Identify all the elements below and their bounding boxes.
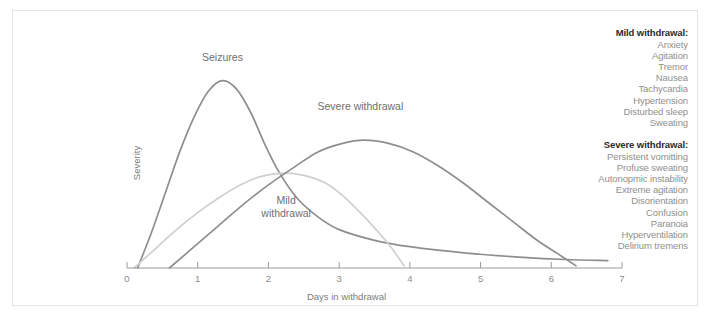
curve-label-seizures: Seizures xyxy=(202,51,243,63)
x-tick-label: 3 xyxy=(336,273,341,284)
x-tick-label: 4 xyxy=(407,273,412,284)
curve-label-mild-withdrawal: Mildwithdrawal xyxy=(260,194,311,219)
symptom-legend: Mild withdrawal:AnxietyAgitationTremorNa… xyxy=(488,27,688,251)
legend-title: Severe withdrawal: xyxy=(488,139,688,151)
x-tick-label: 0 xyxy=(124,273,129,284)
x-tick-label: 2 xyxy=(266,273,271,284)
legend-item: Hypertension xyxy=(488,95,688,106)
legend-item: Disturbed sleep xyxy=(488,106,688,117)
legend-item: Profuse sweating xyxy=(488,162,688,173)
curve-label-severe-withdrawal: Severe withdrawal xyxy=(317,100,403,112)
legend-item: Extreme agitation xyxy=(488,184,688,195)
legend-item: Sweating xyxy=(488,117,688,128)
legend-block: Severe withdrawal:Persistent vomittingPr… xyxy=(488,139,688,251)
legend-item: Tremor xyxy=(488,61,688,72)
y-axis-title: Severity xyxy=(131,146,142,181)
legend-item: Tachycardia xyxy=(488,83,688,94)
x-tick-label: 6 xyxy=(549,273,554,284)
legend-item: Anxiety xyxy=(488,39,688,50)
legend-item: Persistent vomitting xyxy=(488,151,688,162)
x-axis-title: Days in withdrawal xyxy=(307,291,386,302)
legend-title: Mild withdrawal: xyxy=(488,27,688,39)
curve-label-group: SeizuresMildwithdrawalSevere withdrawal xyxy=(202,51,403,218)
x-tick-label: 7 xyxy=(619,273,624,284)
legend-item: Paranoia xyxy=(488,218,688,229)
x-tick-label: 1 xyxy=(195,273,200,284)
legend-item: Confusion xyxy=(488,207,688,218)
legend-item: Disorientation xyxy=(488,195,688,206)
legend-item: Hyperventilation xyxy=(488,229,688,240)
curve-mild-withdrawal xyxy=(134,173,404,268)
legend-item: Autonopmic instability xyxy=(488,173,688,184)
legend-block: Mild withdrawal:AnxietyAgitationTremorNa… xyxy=(488,27,688,128)
legend-item: Delirium tremens xyxy=(488,240,688,251)
legend-item: Nausea xyxy=(488,72,688,83)
x-tick-label: 5 xyxy=(478,273,483,284)
legend-item: Agitation xyxy=(488,50,688,61)
